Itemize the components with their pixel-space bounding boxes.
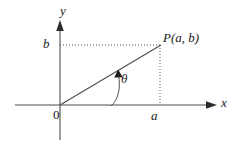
y-axis-label: y xyxy=(60,4,66,17)
abscissa-label-a: a xyxy=(151,109,158,122)
y-axis xyxy=(56,20,64,140)
ordinate-label-b: b xyxy=(43,37,50,50)
x-axis-arrowhead-icon xyxy=(206,101,217,109)
origin-label: 0 xyxy=(53,108,60,121)
hypotenuse-segment xyxy=(60,45,161,105)
point-label-p: P(a, b) xyxy=(163,31,199,44)
x-axis xyxy=(15,101,217,109)
x-axis-label: x xyxy=(221,96,227,109)
y-axis-arrowhead-icon xyxy=(56,20,64,31)
coordinate-diagram: y x b a 0 P(a, b) θ xyxy=(0,0,241,154)
angle-label-theta: θ xyxy=(121,72,127,85)
angle-arc-path xyxy=(111,74,119,106)
